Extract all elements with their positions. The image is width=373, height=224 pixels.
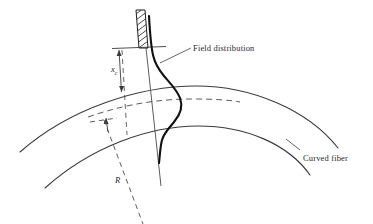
figure-canvas: Field distribution Curved fiber xc R xyxy=(0,0,373,224)
radius-top-tick xyxy=(90,118,117,122)
label-field-distribution: Field distribution xyxy=(193,43,255,53)
caustic-reference-dashed-line xyxy=(122,50,127,135)
caustic-radius-subscript: c xyxy=(115,70,118,76)
label-caustic-radius: xc xyxy=(111,64,117,76)
hatched-block-icon xyxy=(128,0,152,68)
fiber-axis-dashed-arc xyxy=(88,99,240,117)
label-bend-radius: R xyxy=(115,175,120,185)
curved-fiber-leader-line xyxy=(286,139,300,150)
label-curved-fiber: Curved fiber xyxy=(303,153,348,163)
field-distribution-leader-line xyxy=(160,48,191,63)
figure-drawing xyxy=(0,0,373,224)
inner-core-boundary-arc xyxy=(45,126,310,188)
